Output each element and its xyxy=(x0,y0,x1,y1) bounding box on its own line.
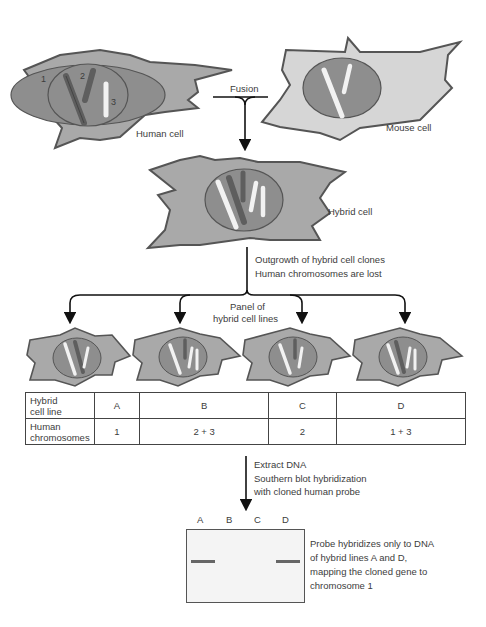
table-row-chromosomes: Human chromosomes 1 2 + 3 2 1 + 3 xyxy=(26,419,466,445)
chromosomes-c: 2 xyxy=(269,419,336,445)
lane-label-d: D xyxy=(282,514,289,525)
hybrid-line-cell-c xyxy=(243,328,350,386)
hybrid-cell xyxy=(148,156,345,248)
extract-text-2: Southern blot hybridization xyxy=(254,473,367,485)
hybrid-line-cell-d xyxy=(353,328,462,386)
hybrid-line-cell-a xyxy=(27,328,130,386)
panel-text-2: hybrid cell lines xyxy=(213,313,278,325)
mouse-cell-label: Mouse cell xyxy=(386,122,431,134)
table-row-cell-line: Hybrid cell line A B C D xyxy=(26,393,466,419)
lane-label-b: B xyxy=(226,514,232,525)
row-header-chromosomes: Human chromosomes xyxy=(26,419,95,445)
band-lane-d xyxy=(276,560,300,563)
chromosome-label-3: 3 xyxy=(111,96,116,108)
blot-caption-2: of hybrid lines A and D, xyxy=(310,552,407,564)
extract-text-3: with cloned human probe xyxy=(254,486,360,498)
human-cell-label: Human cell xyxy=(136,128,184,140)
row-header-cell-line: Hybrid cell line xyxy=(26,393,95,419)
lane-label-a: A xyxy=(197,514,203,525)
outgrowth-text-2: Human chromosomes are lost xyxy=(255,268,382,280)
hybrid-line-cell-b xyxy=(133,328,240,386)
blot-caption-4: chromosome 1 xyxy=(310,580,373,592)
human-cell xyxy=(11,50,232,148)
lane-label-c: C xyxy=(254,514,261,525)
chromosomes-a: 1 xyxy=(95,419,140,445)
chromosomes-d: 1 + 3 xyxy=(336,419,465,445)
blot-caption-3: mapping the cloned gene to xyxy=(310,566,427,578)
cell-line-b: B xyxy=(140,393,269,419)
hybrid-cell-label: Hybrid cell xyxy=(328,206,372,218)
hybrid-line-table: Hybrid cell line A B C D Human chromosom… xyxy=(25,392,466,445)
cell-line-a: A xyxy=(95,393,140,419)
fusion-label: Fusion xyxy=(230,83,259,95)
blot-caption-1: Probe hybridizes only to DNA xyxy=(310,538,434,550)
fusion-arrow xyxy=(213,97,268,145)
mouse-nucleus xyxy=(303,58,381,118)
southern-blot xyxy=(186,529,305,603)
band-lane-a xyxy=(191,560,215,563)
panel-text-1: Panel of xyxy=(230,301,265,313)
extract-text-1: Extract DNA xyxy=(254,459,306,471)
cell-line-d: D xyxy=(336,393,465,419)
chromosome-label-1: 1 xyxy=(41,73,46,85)
chromosomes-b: 2 + 3 xyxy=(140,419,269,445)
outgrowth-text-1: Outgrowth of hybrid cell clones xyxy=(255,254,385,266)
chromosome-label-2: 2 xyxy=(80,70,85,82)
cell-line-c: C xyxy=(269,393,336,419)
